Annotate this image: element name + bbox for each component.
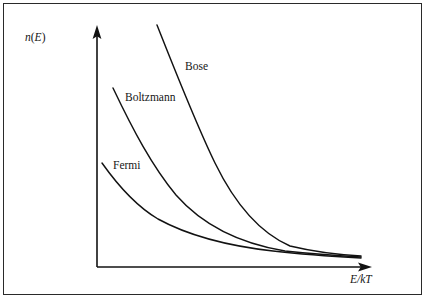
y-axis-label-close-paren: ) [42, 31, 46, 43]
plot-canvas [0, 0, 425, 302]
x-axis-label-denominator: kT [360, 273, 372, 285]
y-axis-label-variable: E [35, 31, 42, 43]
y-axis-label: n(E) [25, 32, 45, 44]
x-axis-label-numerator: E [350, 273, 357, 285]
figure-root: n(E) E/kT Bose Boltzmann Fermi [0, 0, 425, 302]
curve-boltzmann [113, 88, 361, 257]
curve-label-boltzmann: Boltzmann [125, 92, 175, 104]
curve-label-bose: Bose [185, 61, 208, 73]
curve-fermi [102, 163, 361, 258]
curve-label-fermi: Fermi [113, 160, 140, 172]
x-axis-label: E/kT [350, 274, 372, 286]
